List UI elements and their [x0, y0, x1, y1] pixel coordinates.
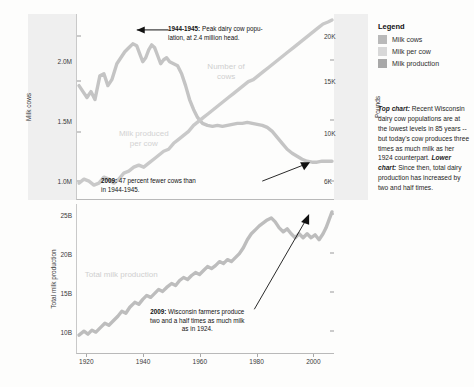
x-axis: 1920 1940 1960 1980 2000 [76, 354, 334, 370]
series-milk-per-cow [79, 20, 332, 185]
explanatory-note: Top chart: Recent Wisconsin dairy cow po… [378, 104, 470, 193]
bottom-chart-ytick-15b: 15B [60, 289, 72, 296]
xtick-2000: 2000 [306, 358, 320, 365]
bottom-chart-y-title: Total milk production [50, 249, 57, 308]
bottom-chart-ytick-25b: 25B [60, 211, 72, 218]
series-milk-cows [79, 44, 332, 162]
legend-swatch-milk-cows [378, 35, 387, 44]
top-chart-ytick-2-0m: 2.0M [58, 57, 72, 64]
note-top-label: Top chart: [378, 105, 410, 112]
annot-top-2009-bold: 2009: [101, 177, 117, 184]
legend-swatch-milk-production [378, 59, 387, 68]
top-chart-right-axis-band [334, 14, 368, 200]
annot-peak-bold: 1944-1945: [168, 25, 200, 32]
xtick-1940: 1940 [136, 358, 150, 365]
legend-item-milk-cows[interactable]: Milk cows [378, 35, 470, 44]
chart-page: Milk cows Pounds 2.0M 1.5M 1.0M 20K 15K … [0, 0, 474, 387]
note-top-text: Recent Wisconsin dairy cow populations a… [378, 105, 469, 161]
legend-label-milk-production: Milk production [392, 60, 439, 67]
legend-item-milk-production[interactable]: Milk production [378, 59, 470, 68]
legend-item-milk-per-cow[interactable]: Milk per cow [378, 47, 470, 56]
legend-title: Legend [378, 22, 470, 31]
top-chart-annotation-2009: 2009: 47 percent fewer cows than in 1944… [101, 177, 196, 194]
bottom-chart: Total milk production 25B 20B 15B 10B To… [28, 204, 368, 354]
bottom-chart-ytick-10b: 10B [60, 328, 72, 335]
side-column: Legend Milk cows Milk per cow Milk produ… [378, 22, 470, 193]
annot-bottom-2009-bold: 2009: [150, 308, 166, 315]
legend-label-milk-per-cow: Milk per cow [392, 48, 431, 55]
top-chart: Milk cows Pounds 2.0M 1.5M 1.0M 20K 15K … [28, 14, 368, 200]
top-chart-y-left-title: Milk cows [25, 93, 32, 121]
legend-swatch-milk-per-cow [378, 47, 387, 56]
legend-label-milk-cows: Milk cows [392, 36, 422, 43]
bottom-chart-ytick-20b: 20B [60, 250, 72, 257]
xtick-1980: 1980 [249, 358, 263, 365]
charts-container: Milk cows Pounds 2.0M 1.5M 1.0M 20K 15K … [28, 8, 368, 380]
bottom-chart-annotation-2009: 2009: Wisconsin farmers produce two and … [150, 308, 245, 334]
top-chart-ytick-1-5m: 1.5M [58, 117, 72, 124]
top-chart-ytick-1-0m: 1.0M [58, 178, 72, 185]
xtick-1960: 1960 [193, 358, 207, 365]
xtick-1920: 1920 [79, 358, 93, 365]
top-chart-left-axis-band [28, 14, 76, 200]
top-chart-annotation-peak: 1944-1945: Peak dairy cow popu- lation, … [168, 25, 263, 42]
